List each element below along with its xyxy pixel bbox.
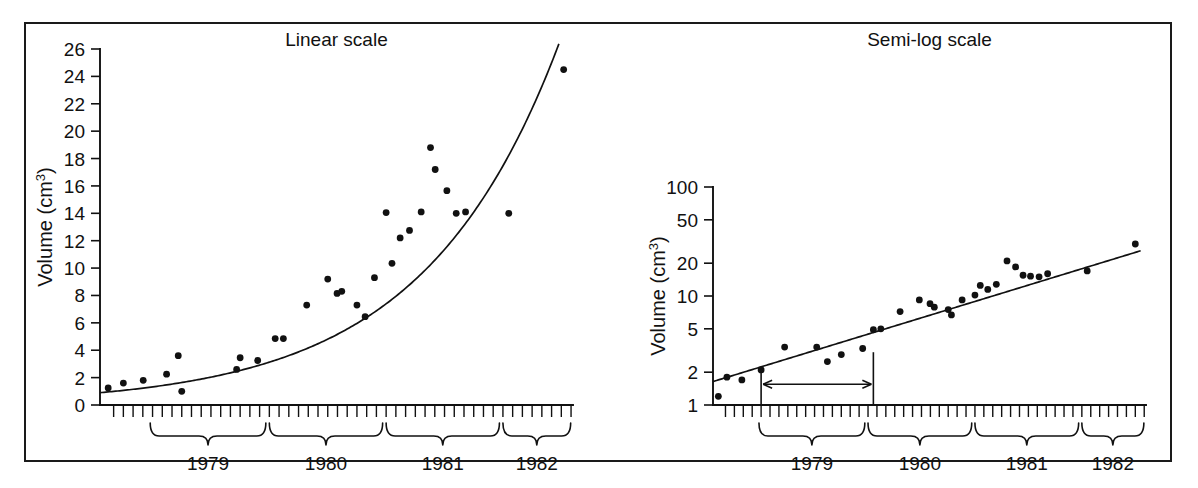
y-axis-tick-label: 14 [64, 203, 86, 224]
data-point [993, 281, 1000, 288]
data-point [715, 393, 722, 400]
x-axis-year-label: 1981 [422, 453, 464, 474]
y-axis-tick-label: 12 [64, 231, 85, 252]
y-axis-tick-label: 0 [74, 395, 85, 416]
y-axis-tick-label: 2 [687, 362, 698, 383]
fit-curve [100, 44, 559, 393]
data-point [272, 335, 279, 342]
data-point [1084, 267, 1091, 274]
y-axis-tick-label: 8 [74, 285, 85, 306]
panel-linear-scale: Linear scale0246810121416182022242619791… [26, 24, 601, 464]
x-axis-year-label: 1982 [516, 453, 558, 474]
y-axis-tick-label: 50 [677, 210, 698, 231]
data-point [824, 358, 831, 365]
data-point [738, 376, 745, 383]
y-axis-tick-label: 10 [677, 286, 698, 307]
x-axis-year-label: 1982 [1092, 453, 1134, 474]
data-point [948, 312, 955, 319]
data-point [280, 335, 287, 342]
y-axis-title-text: Volume (cm3) [33, 167, 56, 287]
data-point [1036, 273, 1043, 280]
doubling-time-arrow [761, 352, 873, 405]
data-point [443, 187, 450, 194]
data-point [781, 344, 788, 351]
year-brace [759, 423, 865, 445]
y-axis-tick-label: 26 [64, 39, 85, 60]
y-axis-tick-label: 6 [74, 313, 85, 334]
data-point [972, 292, 979, 299]
x-axis-year-label: 1980 [305, 453, 347, 474]
y-axis-tick-label: 1 [687, 395, 698, 416]
data-point [462, 209, 469, 216]
data-point [105, 384, 112, 391]
year-brace [503, 423, 571, 445]
year-brace [975, 423, 1079, 445]
data-point-group [715, 241, 1139, 400]
data-point [362, 313, 369, 320]
data-point [505, 210, 512, 217]
data-point [427, 144, 434, 151]
data-point [254, 357, 261, 364]
data-point [303, 302, 310, 309]
data-point [1020, 272, 1027, 279]
data-point [324, 276, 331, 283]
panel-semilog-scale: Semi-log scale12510205010019791980198119… [601, 24, 1174, 464]
y-axis-tick-label: 22 [64, 94, 85, 115]
data-point [338, 288, 345, 295]
y-axis-tick-label: 20 [677, 253, 698, 274]
data-point [1027, 273, 1034, 280]
y-axis-tick-label: 4 [74, 340, 85, 361]
data-point [233, 366, 240, 373]
data-point [724, 374, 731, 381]
panel-title: Linear scale [285, 29, 387, 50]
data-point-group [105, 66, 567, 395]
x-axis-year-label: 1979 [187, 453, 229, 474]
data-point [560, 66, 567, 73]
data-point [977, 282, 984, 289]
year-brace [1082, 423, 1144, 445]
fit-curve [713, 251, 1141, 382]
y-axis-tick-label: 2 [74, 368, 85, 389]
x-axis-year-label: 1980 [899, 453, 941, 474]
semilog-scale-chart: Semi-log scale12510205010019791980198119… [601, 24, 1174, 464]
figure-frame: Linear scale0246810121416182022242619791… [24, 22, 1172, 462]
data-point [418, 209, 425, 216]
data-point [120, 380, 127, 387]
data-point [163, 371, 170, 378]
data-point [1044, 270, 1051, 277]
data-point [984, 286, 991, 293]
y-axis-tick-label: 100 [666, 177, 698, 198]
linear-scale-chart: Linear scale0246810121416182022242619791… [26, 24, 601, 464]
data-point [877, 325, 884, 332]
data-point [406, 227, 413, 234]
data-point [371, 274, 378, 281]
data-point [178, 388, 185, 395]
data-point [859, 345, 866, 352]
figure-root: Linear scale0246810121416182022242619791… [0, 0, 1198, 488]
data-point [237, 354, 244, 361]
data-point [1012, 263, 1019, 270]
data-point [389, 260, 396, 267]
panel-title: Semi-log scale [867, 29, 992, 50]
data-point [916, 297, 923, 304]
year-brace [269, 423, 382, 445]
y-axis-tick-label: 20 [64, 121, 85, 142]
data-point [838, 351, 845, 358]
y-axis-title: Volume (cm3) [646, 236, 669, 356]
data-point [1004, 257, 1011, 264]
y-axis-tick-label: 24 [64, 66, 86, 87]
data-point [931, 304, 938, 311]
y-axis-tick-label: 5 [687, 319, 698, 340]
data-point [397, 235, 404, 242]
data-point [432, 166, 439, 173]
data-point [959, 297, 966, 304]
y-axis-tick-label: 10 [64, 258, 85, 279]
data-point [813, 344, 820, 351]
x-axis-year-label: 1979 [791, 453, 833, 474]
year-brace [150, 423, 266, 445]
data-point [870, 326, 877, 333]
y-axis-title: Volume (cm3) [33, 167, 56, 287]
y-axis-tick-label: 18 [64, 149, 85, 170]
y-axis-tick-label: 16 [64, 176, 85, 197]
data-point [453, 210, 460, 217]
